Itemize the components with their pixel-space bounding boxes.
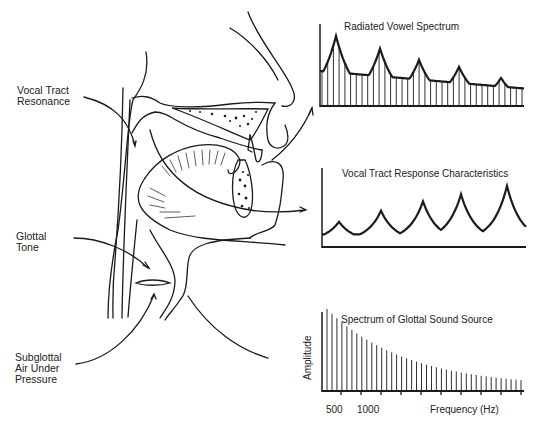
glottal-spectrum-chart [0,0,539,433]
